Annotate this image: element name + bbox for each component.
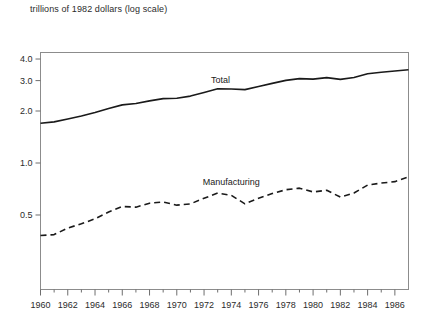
- x-axis-tick-label: 1984: [358, 300, 378, 310]
- x-axis-tick-label: 1966: [112, 300, 132, 310]
- x-axis-tick-label: 1970: [167, 300, 187, 310]
- x-axis-tick-label: 1960: [30, 300, 50, 310]
- x-axis-tick-label: 1986: [385, 300, 405, 310]
- chart-container: trillions of 1982 dollars (log scale) 0.…: [0, 0, 425, 326]
- x-axis-tick-label: 1968: [140, 300, 160, 310]
- y-axis-tick-label: 0.5: [20, 210, 33, 220]
- x-axis-tick-label: 1964: [85, 300, 105, 310]
- x-axis-tick-label: 1980: [303, 300, 323, 310]
- x-axis-tick-label: 1978: [276, 300, 296, 310]
- x-axis-tick-label: 1974: [221, 300, 241, 310]
- y-axis-tick-label: 3.0: [20, 76, 33, 86]
- y-axis-tick-label: 4.0: [20, 54, 33, 64]
- y-axis-tick-label: 2.0: [20, 106, 33, 116]
- plot-frame: [41, 53, 409, 290]
- x-axis-tick-label: 1962: [58, 300, 78, 310]
- x-axis-tick-label: 1972: [194, 300, 214, 310]
- series-label-manufacturing: Manufacturing: [203, 177, 260, 187]
- x-axis-tick-label: 1982: [330, 300, 350, 310]
- series-label-total: Total: [211, 75, 230, 85]
- line-chart-plot: 0.51.02.03.04.01960196219641966196819701…: [0, 0, 425, 326]
- x-axis-tick-label: 1976: [249, 300, 269, 310]
- y-axis-tick-label: 1.0: [20, 158, 33, 168]
